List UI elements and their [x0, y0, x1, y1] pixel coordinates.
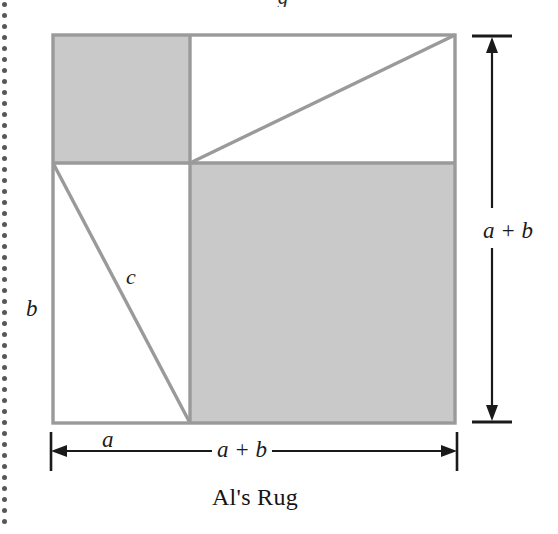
bottom-dimension-left-arrowhead [51, 445, 67, 457]
right-dimension-bottom-arrowhead [486, 405, 498, 421]
shaded-square-top-left [53, 35, 190, 163]
label-side-b: b [26, 296, 38, 322]
figure-page: g b c a a + [0, 0, 558, 534]
label-segment-a: a [102, 427, 114, 453]
al-rug-diagram [0, 0, 558, 534]
bottom-dimension-right-arrowhead [441, 445, 457, 457]
figure-caption: Al's Rug [0, 484, 510, 511]
shaded-square-bottom-right [190, 163, 455, 423]
right-dimension-top-arrowhead [486, 37, 498, 53]
label-total-height: a + b [481, 215, 535, 247]
label-total-width: a + b [212, 437, 272, 463]
label-hypotenuse-c: c [126, 264, 136, 290]
